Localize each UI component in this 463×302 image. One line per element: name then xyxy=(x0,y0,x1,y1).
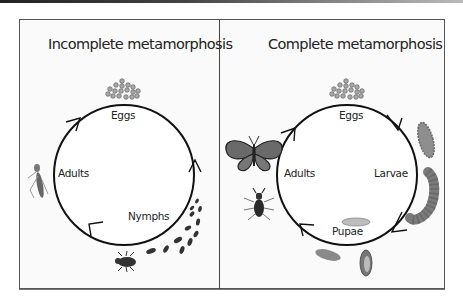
panel-title-complete: Complete metamorphosis xyxy=(268,36,442,52)
panel-title-incomplete: Incomplete metamorphosis xyxy=(48,36,232,52)
stage-label-eggs: Eggs xyxy=(111,109,135,121)
stage-label-eggs: Eggs xyxy=(339,109,363,121)
stage-label-adults: Adults xyxy=(284,167,315,179)
stage-label-larvae: Larvae xyxy=(374,167,408,179)
stage-label-adults: Adults xyxy=(58,167,89,179)
stage-label-pupae: Pupae xyxy=(332,225,363,237)
egg-cluster-icon xyxy=(330,79,365,100)
grasshopper-icon xyxy=(28,164,48,198)
egg-cluster-icon xyxy=(106,79,141,100)
beetle-icon xyxy=(244,188,274,220)
butterfly-icon xyxy=(226,136,282,171)
stage-label-nymphs: Nymphs xyxy=(128,210,169,222)
